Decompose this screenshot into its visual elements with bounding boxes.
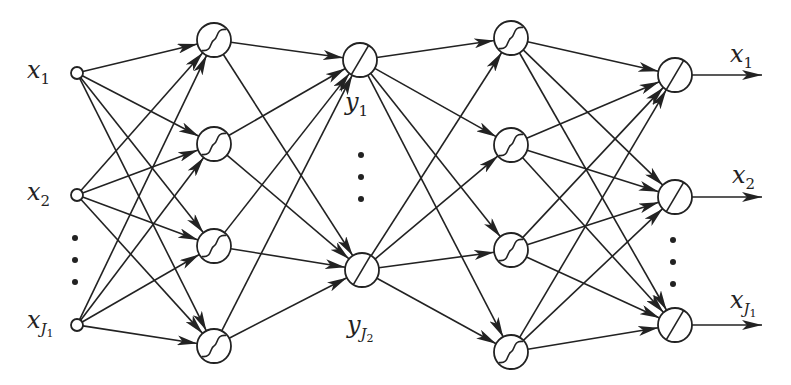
ellipsis-dot [358,152,364,158]
output-label-xJ1: xJ1 [730,288,757,319]
input-node-icon [71,67,83,79]
linear-neuron-icon [658,58,692,92]
connection-arrow [527,202,659,245]
input-node-icon [71,189,83,201]
connection-arrow [231,42,343,57]
ellipsis-dot [72,235,78,241]
output-label-x2: x2 [732,163,755,192]
autoencoder-diagram: x1 x2 xJ1 y1 yJ2 x1 x2 xJ1 [0,0,791,385]
output-label-x1: x1 [730,42,753,71]
ellipsis-dot [358,196,364,202]
ellipsis-dot [358,174,364,180]
sigmoid-neuron-icon [197,127,231,161]
connection-arrow [222,75,353,331]
connection-arrow [377,40,494,57]
bottleneck-label-yJ2: yJ2 [347,313,374,344]
connection-arrow [520,90,667,338]
connection-arrow [80,78,207,330]
connection-arrow [519,53,666,310]
sigmoid-neuron-icon [494,128,528,162]
connection-arrow [523,209,662,341]
sigmoid-neuron-icon [494,21,528,55]
sigmoid-neuron-icon [494,233,528,267]
connection-arrow [223,54,353,255]
linear-neuron-icon [658,180,692,214]
linear-neuron-icon [343,43,377,77]
ellipsis-dot [72,257,78,263]
connection-arrow [81,158,204,321]
ellipsis-dot [670,259,676,265]
connection-arrow [371,52,502,255]
sigmoid-neuron-icon [197,229,231,263]
ellipsis-dot [670,281,676,287]
input-label-xJ1: xJ1 [27,308,54,339]
connection-arrow [528,328,658,349]
connection-arrow [229,278,347,338]
connection-arrow [375,156,498,259]
network-graph [0,0,791,385]
connection-arrow [83,326,197,344]
connection-arrow [231,249,345,268]
input-label-x2: x2 [27,180,50,209]
input-node-icon [71,319,83,331]
connection-arrow [81,53,203,191]
connection-arrow [368,75,503,337]
input-label-x1: x1 [27,58,50,87]
linear-neuron-icon [345,253,379,287]
connection-arrow [379,252,494,267]
sigmoid-neuron-icon [494,335,528,369]
connection-arrow [224,73,349,232]
connection-arrow [523,50,663,185]
ellipsis-dot [72,279,78,285]
bottleneck-label-y1: y1 [345,90,368,119]
ellipsis-dot [670,237,676,243]
connection-arrow [526,257,659,318]
nodes [71,21,692,369]
sigmoid-neuron-icon [197,23,231,57]
connection-arrow [83,44,198,72]
connection-arrow [528,42,659,72]
linear-neuron-icon [658,308,692,342]
sigmoid-neuron-icon [197,329,231,363]
connection-arrow [527,82,660,139]
connection-arrow [83,150,198,193]
